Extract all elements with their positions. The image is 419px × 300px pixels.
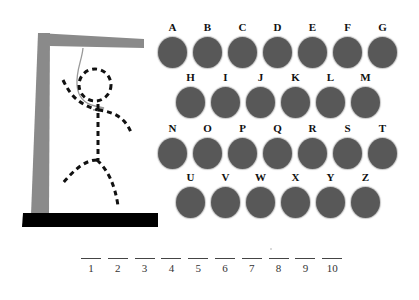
letter-key-h[interactable]: H — [176, 70, 205, 118]
letter-key-button[interactable] — [316, 87, 345, 118]
letter-key-button[interactable] — [316, 187, 345, 218]
letter-key-button[interactable] — [333, 37, 362, 68]
word-slot: 1 — [81, 258, 101, 274]
letter-key-label: F — [333, 20, 362, 34]
letter-key-button[interactable] — [368, 138, 397, 169]
letter-key-label: O — [193, 121, 222, 135]
letter-key-label: R — [298, 121, 327, 135]
letter-key-label: T — [368, 121, 397, 135]
gallows-base — [22, 213, 158, 227]
letter-key-button[interactable] — [263, 37, 292, 68]
letter-key-label: N — [158, 121, 187, 135]
letter-key-v[interactable]: V — [211, 170, 240, 218]
letter-key-z[interactable]: Z — [351, 170, 380, 218]
letter-key-label: X — [281, 170, 310, 184]
letter-key-button[interactable] — [211, 187, 240, 218]
letter-key-button[interactable] — [246, 187, 275, 218]
letter-key-g[interactable]: G — [368, 20, 397, 68]
slot-number: 4 — [161, 262, 181, 274]
letter-key-x[interactable]: X — [281, 170, 310, 218]
blank-line — [215, 258, 235, 259]
slot-number: 5 — [188, 262, 208, 274]
figure-head — [79, 69, 111, 101]
figure-right-leg — [97, 160, 118, 206]
letter-key-button[interactable] — [176, 87, 205, 118]
gallows-post — [31, 33, 50, 215]
letter-key-e[interactable]: E — [298, 20, 327, 68]
letter-key-c[interactable]: C — [228, 20, 257, 68]
letter-key-label: S — [333, 121, 362, 135]
word-slot: 10 — [322, 258, 342, 274]
blank-line — [161, 258, 181, 259]
slot-number: 1 — [81, 262, 101, 274]
blank-line — [242, 258, 262, 259]
letter-key-label: L — [316, 70, 345, 84]
letter-key-button[interactable] — [246, 87, 275, 118]
letter-key-label: A — [158, 20, 187, 34]
letter-key-button[interactable] — [263, 138, 292, 169]
letter-key-button[interactable] — [298, 138, 327, 169]
blank-line — [188, 258, 208, 259]
letter-key-s[interactable]: S — [333, 121, 362, 169]
slot-number: 8 — [269, 262, 289, 274]
letter-key-button[interactable] — [333, 138, 362, 169]
letter-key-k[interactable]: K — [281, 70, 310, 118]
letter-key-l[interactable]: L — [316, 70, 345, 118]
letter-key-label: C — [228, 20, 257, 34]
artifact-dot — [270, 248, 272, 250]
letter-key-label: P — [228, 121, 257, 135]
letter-key-button[interactable] — [228, 37, 257, 68]
letter-key-label: M — [351, 70, 380, 84]
letter-key-a[interactable]: A — [158, 20, 187, 68]
letter-key-button[interactable] — [281, 187, 310, 218]
letter-key-label: W — [246, 170, 275, 184]
letter-key-r[interactable]: R — [298, 121, 327, 169]
letter-key-button[interactable] — [211, 87, 240, 118]
word-slot: 7 — [242, 258, 262, 274]
letter-key-d[interactable]: D — [263, 20, 292, 68]
letter-key-j[interactable]: J — [246, 70, 275, 118]
letter-key-t[interactable]: T — [368, 121, 397, 169]
letter-key-label: Z — [351, 170, 380, 184]
word-slot: 2 — [108, 258, 128, 274]
letter-key-b[interactable]: B — [193, 20, 222, 68]
letter-key-button[interactable] — [193, 37, 222, 68]
letter-key-label: E — [298, 20, 327, 34]
blank-line — [81, 258, 101, 259]
slot-number: 3 — [135, 262, 155, 274]
letter-key-m[interactable]: M — [351, 70, 380, 118]
letter-key-button[interactable] — [351, 187, 380, 218]
blank-line — [322, 258, 342, 259]
letter-key-w[interactable]: W — [246, 170, 275, 218]
letter-key-i[interactable]: I — [211, 70, 240, 118]
word-slot: 6 — [215, 258, 235, 274]
word-slot: 5 — [188, 258, 208, 274]
letter-key-q[interactable]: Q — [263, 121, 292, 169]
blank-line — [108, 258, 128, 259]
letter-key-label: J — [246, 70, 275, 84]
letter-key-button[interactable] — [193, 138, 222, 169]
letter-key-o[interactable]: O — [193, 121, 222, 169]
blank-line — [135, 258, 155, 259]
figure-left-leg — [63, 160, 97, 183]
letter-key-button[interactable] — [368, 37, 397, 68]
figure-right-arm — [98, 110, 132, 135]
letter-key-label: G — [368, 20, 397, 34]
letter-key-f[interactable]: F — [333, 20, 362, 68]
letter-key-button[interactable] — [158, 138, 187, 169]
slot-number: 2 — [108, 262, 128, 274]
letter-key-label: K — [281, 70, 310, 84]
letter-key-p[interactable]: P — [228, 121, 257, 169]
gallows-beam — [38, 33, 144, 48]
word-slot: 4 — [161, 258, 181, 274]
letter-key-button[interactable] — [351, 87, 380, 118]
letter-key-u[interactable]: U — [176, 170, 205, 218]
letter-key-button[interactable] — [158, 37, 187, 68]
letter-key-button[interactable] — [176, 187, 205, 218]
slot-number: 7 — [242, 262, 262, 274]
letter-key-button[interactable] — [281, 87, 310, 118]
letter-key-button[interactable] — [298, 37, 327, 68]
letter-key-button[interactable] — [228, 138, 257, 169]
letter-key-y[interactable]: Y — [316, 170, 345, 218]
letter-key-n[interactable]: N — [158, 121, 187, 169]
